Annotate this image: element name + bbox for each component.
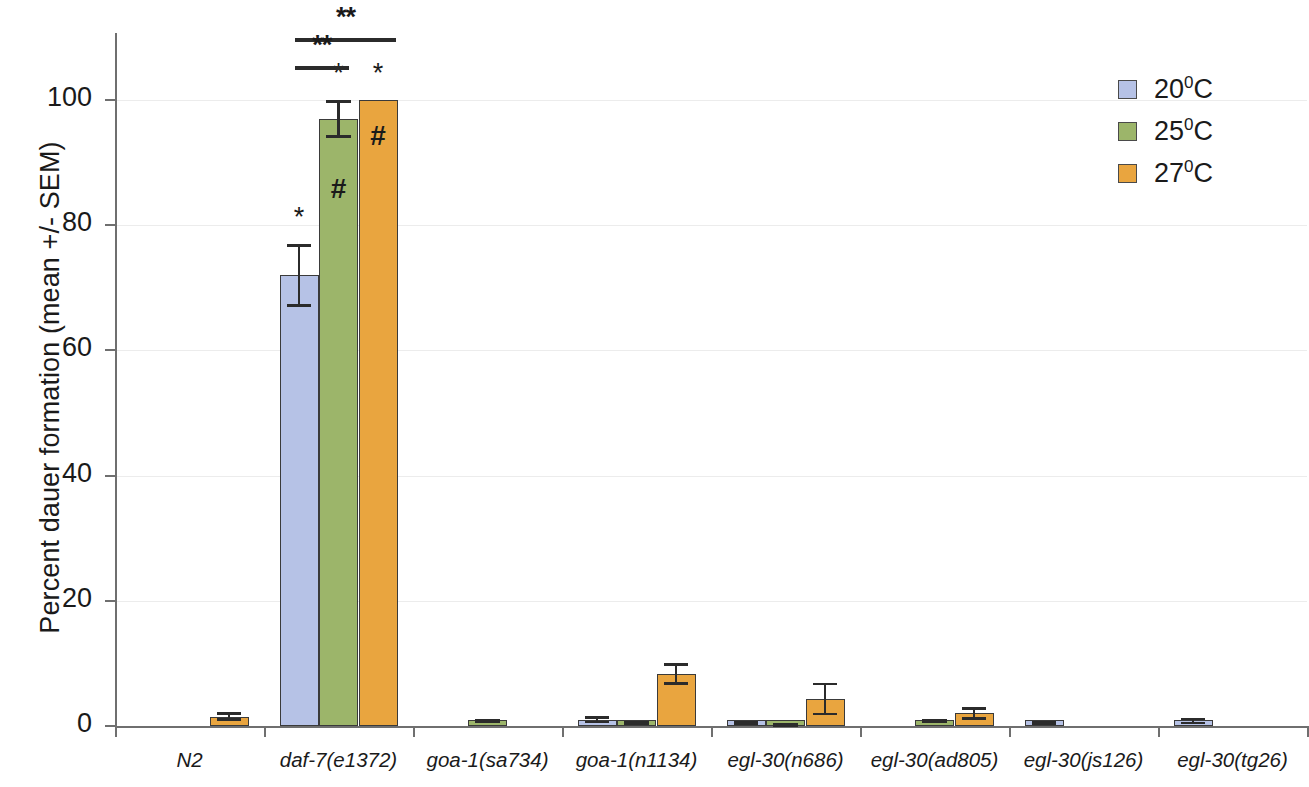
x-axis-tick <box>1009 726 1011 737</box>
x-axis-tick <box>1158 726 1160 737</box>
significance-bracket-label: ** <box>306 2 386 33</box>
legend: 200C250C270C <box>1118 68 1213 194</box>
legend-swatch <box>1118 122 1137 141</box>
significance-bracket-label: ** <box>282 30 362 61</box>
error-bar-cap-bottom <box>217 718 241 721</box>
dauer-formation-bar-chart: Percent dauer formation (mean +/- SEM) 1… <box>0 0 1309 787</box>
error-bar <box>813 683 837 716</box>
significance-hash: # <box>353 122 403 150</box>
y-axis-title: Percent dauer formation (mean +/- SEM) <box>35 38 66 738</box>
error-bar <box>475 719 499 723</box>
error-bar <box>624 721 648 725</box>
y-axis-tick-label: 0 <box>12 708 92 739</box>
legend-item: 200C <box>1118 68 1213 110</box>
error-bar-cap-bottom <box>922 721 946 724</box>
y-axis-tick-label: 40 <box>12 458 92 489</box>
error-bar-cap-bottom <box>962 717 986 720</box>
significance-star: * <box>274 204 324 231</box>
legend-swatch <box>1118 80 1137 99</box>
x-axis-tick <box>562 726 564 737</box>
error-bar <box>922 719 946 723</box>
legend-label: 200C <box>1154 74 1213 105</box>
error-bar-cap-bottom <box>1181 722 1205 725</box>
error-bar-cap-bottom <box>475 721 499 724</box>
error-bar <box>664 663 688 684</box>
error-bar <box>773 723 797 727</box>
error-bar-cap-bottom <box>813 713 837 716</box>
legend-label: 250C <box>1154 116 1213 147</box>
y-axis-line <box>115 33 117 728</box>
legend-swatch <box>1118 164 1137 183</box>
bar <box>280 275 319 726</box>
error-bar-stem <box>824 683 826 716</box>
error-bar-cap-bottom <box>326 135 350 138</box>
error-bar <box>734 721 758 725</box>
x-axis-tick <box>860 726 862 737</box>
error-bar <box>962 707 986 720</box>
error-bar <box>326 100 350 138</box>
error-bar-stem <box>298 244 300 307</box>
error-bar-cap-bottom <box>1032 722 1056 725</box>
error-bar <box>287 244 311 307</box>
legend-item: 270C <box>1118 152 1213 194</box>
error-bar-cap-bottom <box>624 722 648 725</box>
x-axis-tick <box>115 726 117 737</box>
x-axis-tick <box>264 726 266 737</box>
y-axis-tick-label: 80 <box>12 207 92 238</box>
y-axis-tick-label: 20 <box>12 583 92 614</box>
error-bar <box>1181 718 1205 724</box>
error-bar-stem <box>337 100 339 138</box>
legend-item: 250C <box>1118 110 1213 152</box>
bar <box>359 100 398 726</box>
bar <box>319 119 358 726</box>
error-bar <box>217 712 241 721</box>
significance-bracket-line <box>295 66 349 70</box>
legend-label: 270C <box>1154 158 1213 189</box>
y-axis-tick-label: 60 <box>12 332 92 363</box>
error-bar-cap-bottom <box>585 721 609 724</box>
error-bar-cap-bottom <box>773 724 797 727</box>
significance-star: * <box>353 60 403 87</box>
x-axis-tick-label: egl-30(tg26) <box>1113 748 1309 772</box>
error-bar-cap-bottom <box>734 722 758 725</box>
x-axis-tick <box>413 726 415 737</box>
error-bar-cap-bottom <box>664 682 688 685</box>
error-bar <box>1032 721 1056 725</box>
error-bar-cap-bottom <box>287 304 311 307</box>
significance-hash: # <box>314 175 364 203</box>
error-bar <box>585 716 609 724</box>
y-axis-tick-label: 100 <box>12 82 92 113</box>
x-axis-tick <box>711 726 713 737</box>
